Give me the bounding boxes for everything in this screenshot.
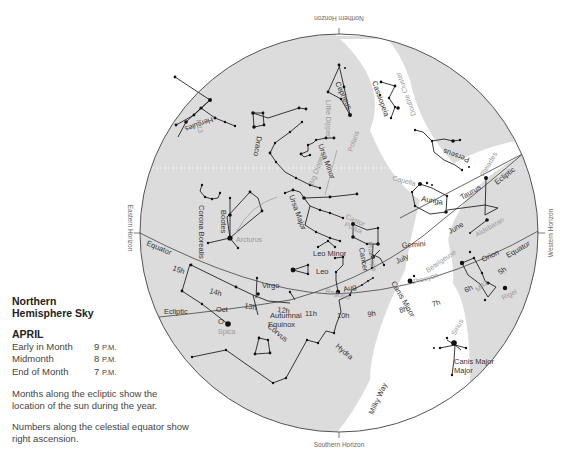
eastern-horizon-label: Eastern Horizon <box>127 205 134 252</box>
svg-text:Bootes: Bootes <box>219 210 228 234</box>
time-row-mid: Midmonth 8 P.M. <box>12 353 192 366</box>
legend-note-equator: Numbers along the celestial equator show… <box>12 421 192 444</box>
canis-major-label-line2: Major <box>454 366 473 375</box>
svg-text:Spica: Spica <box>218 328 236 336</box>
svg-text:9h: 9h <box>367 309 377 319</box>
autumnal-equinox-label: Autumnal <box>270 311 302 320</box>
legend-title-line1: Northern <box>12 295 192 307</box>
time-row-early: Early in Month 9 P.M. <box>12 341 192 354</box>
western-horizon-label: Western Horizon <box>547 208 554 257</box>
legend-title-line2: Hemisphere Sky <box>12 307 192 319</box>
svg-text:11h: 11h <box>305 309 317 318</box>
svg-text:Little Dipper: Little Dipper <box>324 100 332 138</box>
svg-text:Leo Minor: Leo Minor <box>313 249 347 258</box>
legend-panel: Northern Hemisphere Sky APRIL Early in M… <box>12 295 192 444</box>
time-row-end: End of Month 7 P.M. <box>12 366 192 379</box>
northern-horizon-label: Northern Horizon <box>314 15 364 22</box>
svg-text:Oct: Oct <box>216 305 229 314</box>
svg-text:Corona Borealis: Corona Borealis <box>197 205 206 259</box>
svg-text:Canis Major: Canis Major <box>454 357 495 366</box>
legend-note-ecliptic: Months along the ecliptic show the locat… <box>12 388 192 411</box>
legend-month: APRIL <box>12 329 192 341</box>
svg-text:Leo: Leo <box>316 267 329 276</box>
southern-horizon-label: Southern Horizon <box>314 441 365 448</box>
svg-text:Virgo: Virgo <box>262 281 279 290</box>
svg-text:Arcturus: Arcturus <box>236 236 263 243</box>
